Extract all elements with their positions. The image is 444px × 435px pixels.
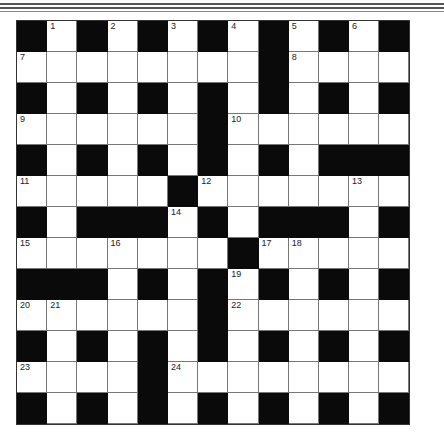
answer-cell[interactable] — [289, 83, 319, 114]
answer-cell[interactable] — [319, 52, 349, 83]
answer-cell[interactable] — [319, 176, 349, 207]
answer-cell[interactable] — [349, 300, 379, 331]
answer-cell[interactable] — [47, 238, 77, 269]
answer-cell[interactable] — [198, 52, 228, 83]
answer-cell[interactable] — [289, 331, 319, 362]
answer-cell[interactable]: 18 — [289, 238, 319, 269]
answer-cell[interactable] — [379, 176, 409, 207]
answer-cell[interactable]: 6 — [349, 21, 379, 52]
answer-cell[interactable] — [289, 362, 319, 393]
answer-cell[interactable] — [47, 52, 77, 83]
answer-cell[interactable] — [168, 300, 198, 331]
answer-cell[interactable] — [228, 393, 258, 424]
answer-cell[interactable] — [289, 145, 319, 176]
answer-cell[interactable] — [47, 176, 77, 207]
answer-cell[interactable]: 21 — [47, 300, 77, 331]
answer-cell[interactable] — [349, 331, 379, 362]
answer-cell[interactable]: 7 — [17, 52, 47, 83]
answer-cell[interactable]: 4 — [228, 21, 258, 52]
answer-cell[interactable] — [198, 238, 228, 269]
answer-cell[interactable] — [168, 269, 198, 300]
answer-cell[interactable]: 13 — [349, 176, 379, 207]
answer-cell[interactable] — [349, 238, 379, 269]
answer-cell[interactable]: 24 — [168, 362, 198, 393]
answer-cell[interactable] — [289, 393, 319, 424]
answer-cell[interactable] — [379, 114, 409, 145]
answer-cell[interactable] — [198, 362, 228, 393]
answer-cell[interactable]: 23 — [17, 362, 47, 393]
answer-cell[interactable] — [289, 114, 319, 145]
answer-cell[interactable]: 9 — [17, 114, 47, 145]
answer-cell[interactable] — [289, 300, 319, 331]
answer-cell[interactable] — [47, 83, 77, 114]
answer-cell[interactable] — [349, 393, 379, 424]
answer-cell[interactable]: 2 — [108, 21, 138, 52]
answer-cell[interactable] — [138, 238, 168, 269]
answer-cell[interactable] — [379, 52, 409, 83]
answer-cell[interactable] — [47, 393, 77, 424]
answer-cell[interactable] — [138, 114, 168, 145]
answer-cell[interactable] — [349, 114, 379, 145]
answer-cell[interactable] — [228, 83, 258, 114]
answer-cell[interactable] — [77, 176, 107, 207]
answer-cell[interactable] — [228, 207, 258, 238]
answer-cell[interactable] — [108, 114, 138, 145]
answer-cell[interactable] — [108, 145, 138, 176]
answer-cell[interactable] — [259, 176, 289, 207]
answer-cell[interactable] — [168, 114, 198, 145]
answer-cell[interactable] — [349, 83, 379, 114]
answer-cell[interactable] — [379, 238, 409, 269]
answer-cell[interactable] — [108, 393, 138, 424]
answer-cell[interactable]: 5 — [289, 21, 319, 52]
answer-cell[interactable] — [259, 114, 289, 145]
answer-cell[interactable] — [47, 114, 77, 145]
answer-cell[interactable] — [349, 207, 379, 238]
answer-cell[interactable] — [77, 52, 107, 83]
answer-cell[interactable] — [168, 52, 198, 83]
answer-cell[interactable]: 17 — [259, 238, 289, 269]
answer-cell[interactable] — [349, 269, 379, 300]
answer-cell[interactable] — [259, 300, 289, 331]
answer-cell[interactable] — [108, 362, 138, 393]
answer-cell[interactable]: 19 — [228, 269, 258, 300]
answer-cell[interactable]: 10 — [228, 114, 258, 145]
answer-cell[interactable]: 11 — [17, 176, 47, 207]
answer-cell[interactable] — [228, 145, 258, 176]
answer-cell[interactable] — [379, 300, 409, 331]
answer-cell[interactable] — [47, 145, 77, 176]
answer-cell[interactable]: 16 — [108, 238, 138, 269]
answer-cell[interactable] — [77, 238, 107, 269]
answer-cell[interactable] — [168, 238, 198, 269]
answer-cell[interactable] — [168, 331, 198, 362]
answer-cell[interactable]: 14 — [168, 207, 198, 238]
answer-cell[interactable] — [108, 176, 138, 207]
answer-cell[interactable] — [289, 176, 319, 207]
answer-cell[interactable] — [138, 176, 168, 207]
answer-cell[interactable] — [108, 52, 138, 83]
answer-cell[interactable] — [77, 300, 107, 331]
answer-cell[interactable] — [108, 83, 138, 114]
answer-cell[interactable] — [138, 300, 168, 331]
answer-cell[interactable]: 1 — [47, 21, 77, 52]
answer-cell[interactable] — [319, 238, 349, 269]
answer-cell[interactable] — [228, 362, 258, 393]
answer-cell[interactable]: 20 — [17, 300, 47, 331]
answer-cell[interactable]: 22 — [228, 300, 258, 331]
answer-cell[interactable] — [289, 269, 319, 300]
answer-cell[interactable] — [77, 114, 107, 145]
answer-cell[interactable] — [379, 362, 409, 393]
answer-cell[interactable] — [228, 331, 258, 362]
answer-cell[interactable] — [228, 176, 258, 207]
answer-cell[interactable] — [108, 269, 138, 300]
answer-cell[interactable] — [259, 362, 289, 393]
answer-cell[interactable] — [168, 393, 198, 424]
answer-cell[interactable] — [228, 52, 258, 83]
answer-cell[interactable]: 15 — [17, 238, 47, 269]
answer-cell[interactable] — [319, 362, 349, 393]
answer-cell[interactable] — [47, 331, 77, 362]
answer-cell[interactable] — [47, 207, 77, 238]
answer-cell[interactable] — [349, 362, 379, 393]
answer-cell[interactable]: 3 — [168, 21, 198, 52]
answer-cell[interactable] — [168, 83, 198, 114]
answer-cell[interactable] — [319, 300, 349, 331]
